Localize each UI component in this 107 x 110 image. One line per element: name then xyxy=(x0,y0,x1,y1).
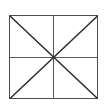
line-diagram xyxy=(0,0,107,110)
figure-canvas xyxy=(0,0,107,110)
